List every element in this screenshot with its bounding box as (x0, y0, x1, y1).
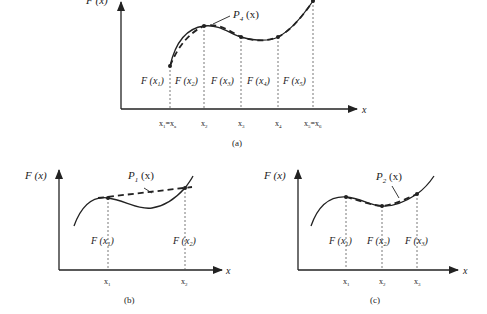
x-axis-label: x (361, 104, 367, 115)
label-leader (392, 186, 399, 198)
x-tick-labels: x1 x2 (104, 277, 188, 287)
function-curve (170, 1, 313, 66)
curve-label: P4 (x) (232, 8, 259, 23)
x-axis-label: x (462, 265, 468, 276)
function-curve (311, 176, 434, 226)
interpolation-figure: F (x) x P4 (x) F (x1) F (x2) F (x3) F (x… (0, 0, 487, 314)
svg-text:x3: x3 (238, 119, 245, 129)
svg-text:x2: x2 (379, 277, 386, 287)
svg-text:x4: x4 (275, 119, 282, 129)
svg-text:F (x3): F (x3) (210, 75, 234, 87)
y-axis-label: F (x) (24, 169, 47, 182)
svg-text:F (x2): F (x2) (174, 75, 198, 87)
svg-text:x5=x6: x5=x6 (304, 119, 322, 129)
caption: (b) (124, 295, 135, 305)
svg-text:x1: x1 (343, 277, 350, 287)
svg-text:x1=xa: x1=xa (159, 119, 177, 129)
label-leader (213, 16, 230, 24)
function-curve (74, 176, 193, 226)
x-axis-label: x (225, 265, 231, 276)
svg-text:x1: x1 (104, 277, 111, 287)
interpolation-curve (170, 1, 313, 66)
svg-text:F (x2): F (x2) (366, 235, 390, 247)
svg-text:F (x1): F (x1) (328, 235, 352, 247)
x-tick-labels: x1 x2 x3 (343, 277, 421, 287)
svg-text:F (x5): F (x5) (282, 75, 306, 87)
caption: (a) (232, 138, 242, 148)
svg-text:x2: x2 (201, 119, 208, 129)
curve-label: P2 (x) (375, 170, 402, 185)
svg-text:F (x4): F (x4) (246, 75, 270, 87)
y-axis-label: F (x) (263, 169, 286, 182)
caption: (c) (370, 295, 380, 305)
svg-text:F (x2): F (x2) (172, 235, 196, 247)
x-tick-labels: x1=xa x2 x3 x4 x5=x6 (159, 119, 322, 129)
panel-c: F (x) x P2 (x) F (x1) F (x2) F (x3) x1 x… (263, 169, 468, 305)
f-labels: F (x1) F (x2) (90, 235, 196, 247)
svg-text:F (x3): F (x3) (404, 235, 428, 247)
f-labels: F (x1) F (x2) F (x3) (328, 235, 428, 247)
node-points (168, 0, 315, 68)
curve-label: P1 (x) (127, 169, 154, 184)
svg-text:F (x1): F (x1) (140, 75, 164, 87)
panel-a: F (x) x P4 (x) F (x1) F (x2) F (x3) F (x… (85, 0, 367, 148)
y-axis-label: F (x) (85, 0, 108, 7)
svg-text:F (x1): F (x1) (90, 235, 114, 247)
f-labels: F (x1) F (x2) F (x3) F (x4) F (x5) (140, 75, 306, 87)
panel-b: F (x) x P1 (x) F (x1) F (x2) x1 x2 (b) (24, 169, 231, 305)
svg-text:x2: x2 (181, 277, 188, 287)
svg-text:x3: x3 (414, 277, 421, 287)
